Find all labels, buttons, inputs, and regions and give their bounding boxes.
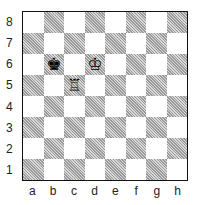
square-c1[interactable] xyxy=(64,159,85,180)
white-king-icon[interactable]: ♔ xyxy=(87,56,102,73)
file-label: c xyxy=(64,184,84,198)
file-label: a xyxy=(22,184,42,198)
square-b7[interactable] xyxy=(44,33,65,54)
square-h7[interactable] xyxy=(167,33,188,54)
square-e4[interactable] xyxy=(105,96,126,117)
square-b2[interactable] xyxy=(44,138,65,159)
square-h6[interactable] xyxy=(167,54,188,75)
square-f7[interactable] xyxy=(126,33,147,54)
square-a7[interactable] xyxy=(23,33,44,54)
rank-label: 2 xyxy=(6,142,13,156)
rank-label: 3 xyxy=(6,121,13,135)
square-d3[interactable] xyxy=(85,117,106,138)
square-c4[interactable] xyxy=(64,96,85,117)
square-e7[interactable] xyxy=(105,33,126,54)
square-f4[interactable] xyxy=(126,96,147,117)
square-h1[interactable] xyxy=(167,159,188,180)
file-label: f xyxy=(126,184,146,198)
square-h2[interactable] xyxy=(167,138,188,159)
square-g3[interactable] xyxy=(146,117,167,138)
square-e2[interactable] xyxy=(105,138,126,159)
square-d4[interactable] xyxy=(85,96,106,117)
square-h5[interactable] xyxy=(167,75,188,96)
square-f6[interactable] xyxy=(126,54,147,75)
square-a2[interactable] xyxy=(23,138,44,159)
file-label: g xyxy=(147,184,167,198)
square-d1[interactable] xyxy=(85,159,106,180)
square-c2[interactable] xyxy=(64,138,85,159)
square-d6[interactable]: ♔ xyxy=(85,54,106,75)
square-e1[interactable] xyxy=(105,159,126,180)
file-label: e xyxy=(105,184,125,198)
square-a4[interactable] xyxy=(23,96,44,117)
rank-label: 1 xyxy=(6,163,13,177)
square-a5[interactable] xyxy=(23,75,44,96)
square-h3[interactable] xyxy=(167,117,188,138)
black-king-icon[interactable]: ♚ xyxy=(46,56,61,73)
rank-label: 5 xyxy=(6,78,13,92)
square-f1[interactable] xyxy=(126,159,147,180)
square-b6[interactable]: ♚ xyxy=(44,54,65,75)
square-g1[interactable] xyxy=(146,159,167,180)
square-c7[interactable] xyxy=(64,33,85,54)
file-label: h xyxy=(168,184,188,198)
rank-label: 6 xyxy=(6,57,13,71)
square-c8[interactable] xyxy=(64,12,85,33)
square-b5[interactable] xyxy=(44,75,65,96)
square-d2[interactable] xyxy=(85,138,106,159)
rank-label: 8 xyxy=(6,15,13,29)
square-h8[interactable] xyxy=(167,12,188,33)
square-g8[interactable] xyxy=(146,12,167,33)
rank-label: 4 xyxy=(6,100,13,114)
square-c3[interactable] xyxy=(64,117,85,138)
square-b1[interactable] xyxy=(44,159,65,180)
square-e8[interactable] xyxy=(105,12,126,33)
square-g4[interactable] xyxy=(146,96,167,117)
square-d7[interactable] xyxy=(85,33,106,54)
square-e3[interactable] xyxy=(105,117,126,138)
square-b4[interactable] xyxy=(44,96,65,117)
square-g7[interactable] xyxy=(146,33,167,54)
square-e6[interactable] xyxy=(105,54,126,75)
square-a6[interactable] xyxy=(23,54,44,75)
square-d5[interactable] xyxy=(85,75,106,96)
square-a8[interactable] xyxy=(23,12,44,33)
square-f5[interactable] xyxy=(126,75,147,96)
square-g5[interactable] xyxy=(146,75,167,96)
square-e5[interactable] xyxy=(105,75,126,96)
rank-label: 7 xyxy=(6,36,13,50)
square-b3[interactable] xyxy=(44,117,65,138)
square-g2[interactable] xyxy=(146,138,167,159)
square-c5[interactable]: ♖ xyxy=(64,75,85,96)
square-b8[interactable] xyxy=(44,12,65,33)
square-a3[interactable] xyxy=(23,117,44,138)
white-rook-icon[interactable]: ♖ xyxy=(67,77,82,94)
square-f8[interactable] xyxy=(126,12,147,33)
square-d8[interactable] xyxy=(85,12,106,33)
square-a1[interactable] xyxy=(23,159,44,180)
square-c6[interactable] xyxy=(64,54,85,75)
chess-board: ♚♔♖ xyxy=(22,11,188,181)
file-label: b xyxy=(43,184,63,198)
file-label: d xyxy=(85,184,105,198)
square-h4[interactable] xyxy=(167,96,188,117)
square-g6[interactable] xyxy=(146,54,167,75)
square-f3[interactable] xyxy=(126,117,147,138)
square-f2[interactable] xyxy=(126,138,147,159)
